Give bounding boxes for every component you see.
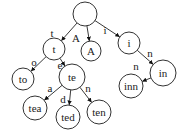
edge-label: A <box>72 32 80 44</box>
edge-arrow <box>142 78 151 82</box>
node-in: in <box>150 60 176 86</box>
node-inn: inn <box>119 74 143 98</box>
edge-label: n <box>147 47 153 59</box>
node-label: tea <box>29 102 42 114</box>
edge-root-A: A <box>72 26 89 44</box>
node-tea: tea <box>23 96 47 120</box>
trie-diagram: tAioeadnnn tAitoteininnteatedten <box>0 0 183 135</box>
node-label: te <box>68 71 76 83</box>
node-circle <box>73 2 97 26</box>
node-label: ted <box>61 111 75 123</box>
node-label: in <box>159 67 168 79</box>
node-label: t <box>52 43 55 55</box>
node-label: to <box>19 73 28 85</box>
node-ten: ten <box>87 100 111 124</box>
node-label: i <box>127 37 130 49</box>
edge-label: n <box>133 60 139 72</box>
edge-label: i <box>103 24 106 36</box>
edge-te-ted: d <box>60 90 70 105</box>
node-label: A <box>87 45 95 57</box>
node-ted: ted <box>56 105 80 129</box>
edge-label: d <box>60 93 66 105</box>
node-to: to <box>12 68 34 90</box>
node-A: A <box>81 41 101 61</box>
trie-svg: tAioeadnnn tAitoteininnteatedten <box>0 0 183 135</box>
edge-arrow <box>69 90 71 105</box>
edge-i-in: n <box>137 47 153 64</box>
node-label: inn <box>124 80 139 92</box>
edge-label: n <box>85 82 91 94</box>
node-root <box>73 2 97 26</box>
edge-root-i: i <box>95 21 120 37</box>
edge-t-to: o <box>31 56 46 71</box>
node-i: i <box>118 32 140 54</box>
edge-label: t <box>50 27 53 39</box>
edge-label: o <box>31 56 37 68</box>
node-label: ten <box>92 106 106 118</box>
edge-arrow <box>87 26 89 41</box>
node-te: te <box>59 64 85 90</box>
node-t: t <box>43 38 65 60</box>
edge-arrow <box>95 21 120 37</box>
edge-label: a <box>48 82 53 94</box>
